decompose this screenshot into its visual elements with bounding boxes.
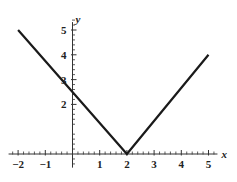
y-tick-label: 5 (51, 25, 67, 36)
absolute-value-curve (18, 30, 208, 154)
x-tick-label: 5 (200, 159, 218, 170)
x-tick-label: −2 (9, 159, 27, 170)
x-tick-label: 1 (91, 159, 109, 170)
x-axis-major-ticks (18, 150, 208, 156)
x-tick-label: 3 (145, 159, 163, 170)
plot-canvas (0, 0, 237, 182)
x-tick-label: 2 (118, 159, 136, 170)
x-tick-label: −1 (36, 159, 54, 170)
x-tick-label: 4 (172, 159, 190, 170)
x-axis-label: x (221, 149, 227, 160)
y-tick-label: 4 (51, 50, 67, 61)
y-tick-label: 2 (51, 99, 67, 110)
y-axis-label: y (76, 14, 81, 25)
y-tick-label: 3 (51, 75, 67, 86)
graph-figure: −2−112345 2345 x y (0, 0, 237, 182)
